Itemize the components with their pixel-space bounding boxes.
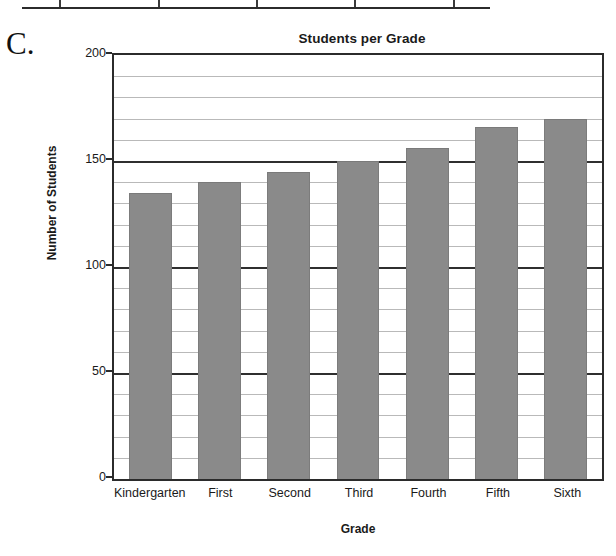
bar <box>475 127 518 479</box>
x-tick-label: Sixth <box>533 486 602 500</box>
bar-slot <box>393 55 462 479</box>
bar <box>129 193 172 479</box>
table-bottom-border <box>22 7 490 9</box>
bar-slot <box>254 55 323 479</box>
y-tick-label: 0 <box>99 470 106 484</box>
bar-series <box>114 55 602 479</box>
bar <box>544 119 587 479</box>
bar <box>337 161 380 479</box>
part-letter: C. <box>6 28 34 59</box>
table-divider <box>453 0 455 7</box>
table-divider <box>158 0 160 7</box>
bar-slot <box>116 55 185 479</box>
y-tick-label: 150 <box>85 152 106 166</box>
plot-area <box>112 53 604 481</box>
x-tick-label: Second <box>255 486 324 500</box>
worksheet-page: C. Students per Grade 050100150200 Numbe… <box>0 0 616 556</box>
y-axis-title: Number of Students <box>45 123 59 283</box>
bar <box>406 148 449 479</box>
y-tick-label: 50 <box>92 364 106 378</box>
bar-slot <box>323 55 392 479</box>
x-tick-label: Kindergarten <box>114 486 186 500</box>
bar <box>267 172 310 479</box>
y-tick-label: 100 <box>85 258 106 272</box>
x-tick-label: Fourth <box>394 486 463 500</box>
table-divider <box>59 0 61 7</box>
y-axis: 050100150200 <box>60 53 112 481</box>
x-tick-label: Third <box>324 486 393 500</box>
bar-slot <box>185 55 254 479</box>
x-axis-title: Grade <box>112 522 604 536</box>
y-tick-label: 200 <box>85 46 106 60</box>
bar-slot <box>531 55 600 479</box>
bar-slot <box>462 55 531 479</box>
table-divider <box>354 0 356 7</box>
table-divider <box>256 0 258 7</box>
x-axis-tick-labels: KindergartenFirstSecondThirdFourthFifthS… <box>112 486 604 500</box>
x-tick-label: Fifth <box>463 486 532 500</box>
chart-title: Students per Grade <box>112 31 612 46</box>
bar <box>198 182 241 479</box>
x-tick-label: First <box>186 486 255 500</box>
table-fragment <box>22 0 490 12</box>
